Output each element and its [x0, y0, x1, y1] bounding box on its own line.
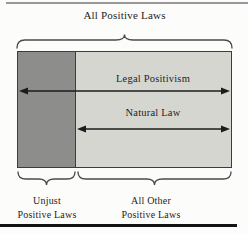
all-other-label-line2: Positive Laws	[91, 208, 211, 222]
all-other-positive-laws-label: All Other Positive Laws	[91, 194, 211, 221]
natural-law-arrow	[77, 124, 230, 134]
unjust-positive-laws-brace	[17, 171, 76, 186]
natural-law-label: Natural Law	[76, 107, 230, 118]
legal-positivism-label: Legal Positivism	[76, 73, 230, 84]
legal-positivism-arrow	[19, 86, 230, 96]
figure-title: All Positive Laws	[17, 9, 232, 24]
unjust-positive-laws-region	[18, 52, 76, 167]
unjust-label-line1: Unjust	[2, 194, 92, 208]
all-other-label-line1: All Other	[91, 194, 211, 208]
unjust-label-line2: Positive Laws	[2, 208, 92, 222]
page-rule-top	[6, 2, 248, 4]
all-positive-laws-brace	[16, 33, 233, 50]
positive-laws-rectangle: Legal Positivism Natural Law	[17, 51, 232, 168]
all-other-positive-laws-brace	[77, 171, 232, 186]
unjust-positive-laws-label: Unjust Positive Laws	[2, 194, 92, 221]
page-rule-bottom	[0, 224, 237, 227]
